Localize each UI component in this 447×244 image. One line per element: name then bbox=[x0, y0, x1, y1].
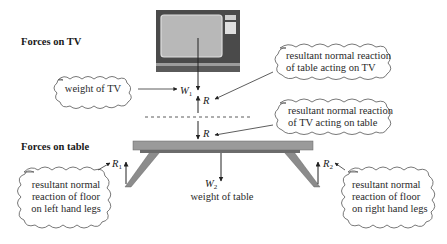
table-right-leg bbox=[284, 152, 320, 187]
weight-of-table-text: weight of table bbox=[191, 191, 254, 202]
cloud-tv-on-table: resultant normal reaction of TV acting o… bbox=[275, 99, 394, 135]
cloud-table-on-tv: resultant normal reaction of table actin… bbox=[275, 44, 392, 80]
tv-on-table-pointer bbox=[215, 125, 273, 135]
floor-right-pointer bbox=[335, 163, 345, 170]
w2-label: W2 bbox=[205, 178, 218, 191]
heading-forces-on-tv: Forces on TV bbox=[21, 36, 82, 47]
floor-right-line-3: on right hand legs bbox=[352, 203, 428, 214]
r-on-tv-label: R bbox=[202, 95, 210, 106]
table-on-tv-line-2: of table acting on TV bbox=[286, 62, 376, 73]
r-on-table-label: R bbox=[202, 128, 210, 139]
floor-left-line-3: on left hand legs bbox=[31, 203, 101, 214]
floor-left-pointer bbox=[98, 163, 110, 170]
floor-right-line-1: resultant normal bbox=[352, 179, 421, 190]
heading-forces-on-table: Forces on table bbox=[21, 141, 89, 152]
table-illustration bbox=[125, 141, 320, 187]
tv-on-table-line-1: resultant normal reaction bbox=[288, 105, 394, 116]
cloud-floor-right-legs: resultant normal reaction of floor on ri… bbox=[342, 167, 435, 228]
cloud-floor-left-legs: resultant normal reaction of floor on le… bbox=[18, 167, 111, 228]
weight-of-tv-text: weight of TV bbox=[65, 83, 122, 94]
floor-right-line-2: reaction of floor bbox=[352, 191, 421, 202]
w1-label: W1 bbox=[180, 85, 193, 98]
floor-left-line-2: reaction of floor bbox=[32, 191, 101, 202]
table-on-tv-pointer bbox=[215, 72, 273, 99]
cloud-weight-of-tv: weight of TV bbox=[54, 77, 131, 109]
tv-control-panel bbox=[225, 22, 236, 34]
tv-knob-top bbox=[225, 15, 236, 20]
floor-left-line-1: resultant normal bbox=[32, 179, 101, 190]
table-left-leg bbox=[125, 152, 160, 187]
r1-label: R1 bbox=[111, 158, 122, 171]
r2-label: R2 bbox=[322, 158, 333, 171]
table-on-tv-line-1: resultant normal reaction bbox=[286, 50, 392, 61]
tv-on-table-line-2: of TV acting on table bbox=[288, 117, 378, 128]
tv-screen bbox=[161, 15, 222, 57]
table-top bbox=[133, 141, 313, 150]
free-body-diagram: Forces on TV Forces on table W1 R weight… bbox=[0, 0, 447, 244]
